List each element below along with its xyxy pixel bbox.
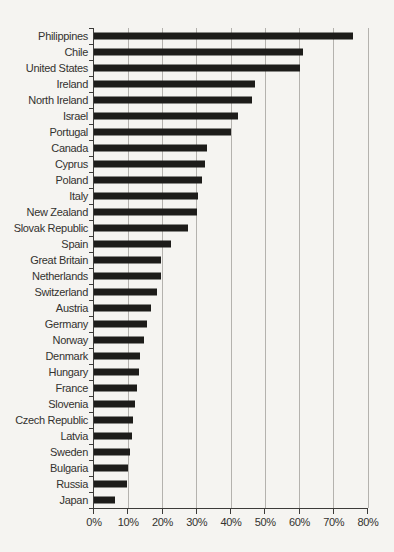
bar-row: [94, 380, 368, 396]
value-axis-tick-label: 70%: [323, 516, 344, 528]
category-label: United States: [0, 60, 88, 76]
bar: [94, 33, 353, 40]
value-axis-tick-label: 10%: [118, 516, 139, 528]
bar: [94, 129, 231, 136]
value-axis-tick: [93, 509, 94, 514]
value-axis-tick: [264, 509, 265, 514]
category-axis-tick: [89, 508, 93, 509]
bar-row: [94, 284, 368, 300]
category-label: Japan: [0, 492, 88, 508]
category-axis-tick: [89, 172, 93, 173]
category-axis-tick: [89, 332, 93, 333]
category-axis-tick: [89, 92, 93, 93]
category-label: Sweden: [0, 444, 88, 460]
bar-row: [94, 348, 368, 364]
category-axis-tick: [89, 220, 93, 221]
category-label: Russia: [0, 476, 88, 492]
bar-row: [94, 476, 368, 492]
bar-row: [94, 28, 368, 44]
category-label: Israel: [0, 108, 88, 124]
value-axis-tick: [299, 509, 300, 514]
category-axis-tick: [89, 284, 93, 285]
category-axis-tick: [89, 76, 93, 77]
bar: [94, 305, 151, 312]
bar: [94, 369, 139, 376]
category-label: Germany: [0, 316, 88, 332]
category-label: Canada: [0, 140, 88, 156]
bar-row: [94, 92, 368, 108]
bar: [94, 449, 130, 456]
bar-row: [94, 140, 368, 156]
value-axis-tick: [367, 509, 368, 514]
category-label: Philippines: [0, 28, 88, 44]
category-label: Cyprus: [0, 156, 88, 172]
category-label: Switzerland: [0, 284, 88, 300]
bar-row: [94, 60, 368, 76]
category-label: Slovenia: [0, 396, 88, 412]
category-axis-tick: [89, 252, 93, 253]
category-axis-tick: [89, 316, 93, 317]
bar-row: [94, 300, 368, 316]
bar: [94, 417, 133, 424]
category-axis-tick: [89, 44, 93, 45]
bar: [94, 337, 144, 344]
category-label: Slovak Republic: [0, 220, 88, 236]
value-axis-tick: [127, 509, 128, 514]
bar: [94, 177, 202, 184]
category-label: Hungary: [0, 364, 88, 380]
category-label: Italy: [0, 188, 88, 204]
category-axis-tick: [89, 412, 93, 413]
value-axis-tick-label: 80%: [357, 516, 378, 528]
bar: [94, 209, 197, 216]
bar: [94, 97, 252, 104]
category-axis-tick: [89, 364, 93, 365]
bar-row: [94, 188, 368, 204]
value-axis-tick: [162, 509, 163, 514]
category-label: Denmark: [0, 348, 88, 364]
category-label: Latvia: [0, 428, 88, 444]
category-label: Austria: [0, 300, 88, 316]
bar-row: [94, 316, 368, 332]
category-label: France: [0, 380, 88, 396]
category-axis-tick: [89, 428, 93, 429]
category-label: Czech Republic: [0, 412, 88, 428]
bar-row: [94, 412, 368, 428]
bar-row: [94, 332, 368, 348]
category-label: New Zealand: [0, 204, 88, 220]
bar: [94, 321, 147, 328]
category-label: Ireland: [0, 76, 88, 92]
bar-row: [94, 220, 368, 236]
value-axis-tick-label: 0%: [86, 516, 101, 528]
bar-row: [94, 444, 368, 460]
bar-row: [94, 204, 368, 220]
bar: [94, 65, 300, 72]
category-axis-tick: [89, 380, 93, 381]
bar: [94, 273, 161, 280]
bar-row: [94, 156, 368, 172]
bar: [94, 353, 140, 360]
bar: [94, 465, 128, 472]
category-axis-tick: [89, 156, 93, 157]
bar: [94, 289, 157, 296]
category-axis-tick: [89, 460, 93, 461]
category-axis-tick: [89, 396, 93, 397]
bar-row: [94, 108, 368, 124]
bar-row: [94, 492, 368, 508]
value-axis-tick-label: 50%: [255, 516, 276, 528]
category-axis-tick: [89, 300, 93, 301]
bar: [94, 161, 205, 168]
bar-row: [94, 236, 368, 252]
bar: [94, 113, 238, 120]
category-label: Poland: [0, 172, 88, 188]
category-axis-labels: PhilippinesChileUnited StatesIrelandNort…: [0, 28, 88, 508]
value-axis-tick: [230, 509, 231, 514]
category-axis-tick: [89, 348, 93, 349]
bar-row: [94, 364, 368, 380]
bar: [94, 81, 255, 88]
bar: [94, 481, 127, 488]
category-axis-tick: [89, 140, 93, 141]
value-axis-tick-label: 20%: [152, 516, 173, 528]
category-axis-tick: [89, 108, 93, 109]
category-label: Great Britain: [0, 252, 88, 268]
value-axis-tick-label: 30%: [186, 516, 207, 528]
